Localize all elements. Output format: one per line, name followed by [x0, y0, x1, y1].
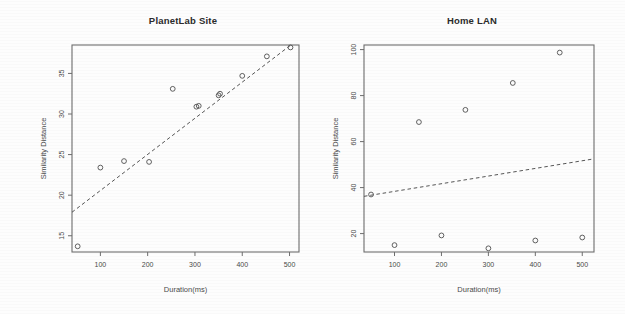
scatter-point: [510, 81, 515, 86]
y-tick-label: 100: [350, 44, 357, 56]
two-panel-scatter-figure: PlanetLab Site 1002003004005001520253035…: [0, 0, 625, 314]
scatter-point: [75, 244, 80, 249]
scatter-point: [170, 86, 175, 91]
y-tick-label: 30: [58, 110, 65, 118]
plot-frame: [72, 45, 299, 252]
scatter-point: [240, 73, 245, 78]
x-tick-label: 400: [529, 261, 541, 268]
scatter-point: [147, 159, 152, 164]
x-tick-label: 500: [284, 261, 296, 268]
planetlab-site-plot: PlanetLab Site 1002003004005001520253035…: [0, 0, 312, 314]
y-axis-title: Similarity Distance: [331, 118, 340, 180]
plot-frame: [364, 45, 594, 252]
scatter-point: [417, 120, 422, 125]
x-axis-title: Duration(ms): [164, 285, 208, 294]
home-lan-plot: Home LAN 10020030040050020406080100Durat…: [312, 0, 625, 314]
scatter-point: [122, 159, 127, 164]
y-tick-label: 60: [350, 138, 357, 146]
scatter-point: [533, 238, 538, 243]
x-tick-label: 300: [189, 261, 201, 268]
x-tick-label: 100: [95, 261, 107, 268]
regression-fit-line: [364, 159, 594, 196]
scatter-point: [288, 45, 293, 50]
y-axis-title: Similarity Distance: [39, 118, 48, 180]
x-tick-label: 200: [436, 261, 448, 268]
scatter-point: [557, 50, 562, 55]
scatter-point: [463, 107, 468, 112]
scatter-point: [439, 233, 444, 238]
chart-title-left: PlanetLab Site: [149, 15, 217, 26]
x-tick-label: 100: [389, 261, 401, 268]
y-tick-label: 35: [58, 69, 65, 77]
chart-panel-planetlab-site: PlanetLab Site 1002003004005001520253035…: [0, 0, 312, 314]
x-tick-label: 400: [236, 261, 248, 268]
x-tick-label: 300: [483, 261, 495, 268]
y-tick-label: 20: [58, 191, 65, 199]
y-tick-label: 15: [58, 232, 65, 240]
plot-area-right: 10020030040050020406080100Duration(ms)Si…: [331, 44, 594, 294]
y-tick-label: 40: [350, 184, 357, 192]
scatter-point: [486, 246, 491, 251]
scatter-point: [580, 235, 585, 240]
x-tick-label: 200: [142, 261, 154, 268]
chart-panel-home-lan: Home LAN 10020030040050020406080100Durat…: [312, 0, 624, 314]
y-tick-label: 80: [350, 92, 357, 100]
scatter-point: [392, 243, 397, 248]
y-tick-label: 20: [350, 230, 357, 238]
plot-area-left: 1002003004005001520253035Duration(ms)Sim…: [39, 44, 299, 294]
scatter-point: [264, 54, 269, 59]
y-tick-label: 25: [58, 151, 65, 159]
chart-title-right: Home LAN: [447, 15, 497, 26]
regression-fit-line: [72, 44, 292, 212]
scatter-point: [98, 165, 103, 170]
x-axis-title: Duration(ms): [457, 285, 501, 294]
x-tick-label: 500: [576, 261, 588, 268]
